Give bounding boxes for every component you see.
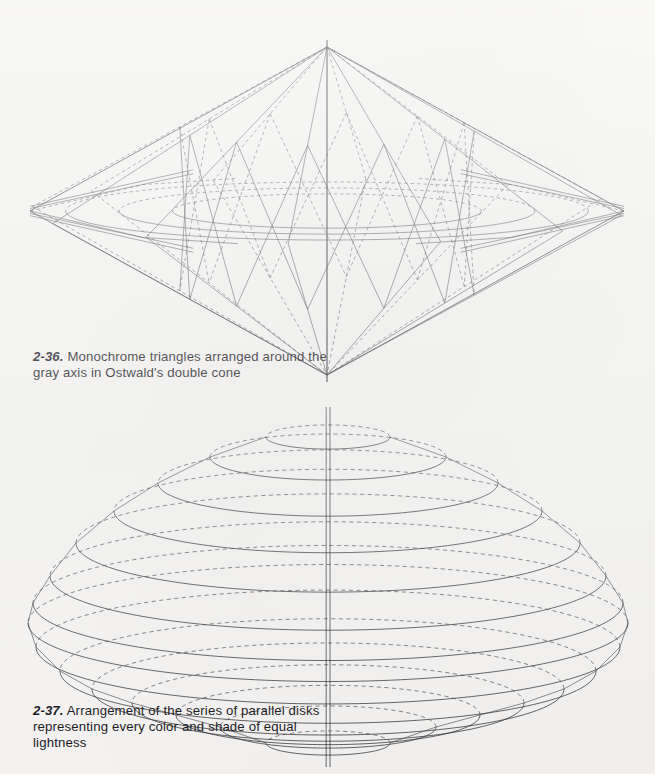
double-cone-drawing — [0, 0, 655, 400]
figure-ostwald-double-cone — [0, 0, 655, 400]
caption-text-2-36: Monochrome triangles arranged around the… — [33, 349, 327, 380]
triangle-upper-edge — [91, 47, 327, 191]
tip-band-lower — [461, 213, 624, 248]
triangle-lower-edge — [327, 231, 563, 375]
caption-number-2-36: 2-36. — [33, 349, 64, 364]
triangle-upper-edge — [33, 47, 327, 207]
triangle-cross-edge — [308, 145, 384, 308]
disk-front-edge — [76, 543, 580, 592]
disk-front-edge — [33, 603, 623, 661]
solid-envelope-right — [390, 437, 628, 743]
figure-page: 2-36. Monochrome triangles arranged arou… — [0, 0, 655, 774]
caption-number-2-37: 2-37. — [33, 703, 64, 718]
tip-band-lower — [30, 213, 193, 248]
caption-text-2-37: Arrangement of the series of parallel di… — [33, 703, 319, 750]
disk-back-edge — [158, 450, 498, 483]
triangle-lower-edge — [327, 241, 441, 375]
triangle-upper-edge — [213, 47, 327, 181]
disk-front-edge — [210, 457, 446, 480]
disk-back-edge — [33, 545, 623, 603]
disk-front-edge — [28, 623, 628, 682]
figure-caption-2-37: 2-37. Arrangement of the series of paral… — [33, 703, 353, 751]
triangle-cross-edge — [464, 131, 474, 287]
tip-band-upper — [461, 170, 624, 207]
disk-back-edge — [210, 434, 446, 457]
disk-back-edge — [50, 522, 606, 576]
disk-back-edge — [76, 494, 580, 543]
tip-band-upper — [30, 174, 193, 209]
disk-front-edge — [50, 576, 606, 630]
disk-back-edge — [60, 619, 596, 671]
triangle-cross-edge — [190, 135, 237, 306]
disk-front-edge — [36, 647, 620, 704]
triangle-cross-edge — [417, 123, 464, 280]
triangle-cross-edge — [384, 144, 445, 303]
disk-back-edge — [28, 565, 628, 624]
solid-envelope-left — [28, 437, 266, 743]
triangle-cross-edge — [417, 116, 464, 287]
triangle-cross-edge — [445, 139, 474, 295]
disk-back-edge — [36, 590, 620, 647]
disk-front-edge — [114, 511, 542, 553]
disk-back-edge — [266, 425, 390, 437]
disk-back-edge — [114, 469, 542, 511]
disk-back-edge — [92, 643, 564, 689]
tip-band-upper — [461, 174, 624, 209]
triangle-cross-edge — [270, 113, 346, 278]
triangle-lower-edge — [327, 215, 621, 375]
disk-front-edge — [266, 437, 390, 449]
figure-caption-2-36: 2-36. Monochrome triangles arranged arou… — [33, 349, 333, 381]
